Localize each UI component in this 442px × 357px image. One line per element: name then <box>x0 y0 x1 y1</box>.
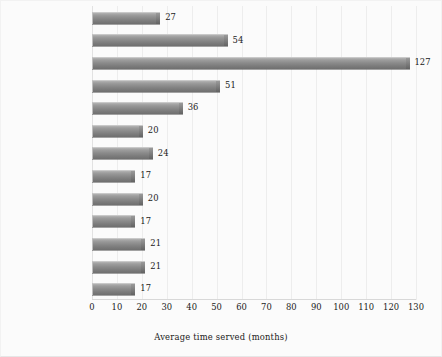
bar-value-label: 20 <box>148 187 159 210</box>
bar-end-bevel <box>179 103 183 114</box>
bar-end-bevel <box>131 284 135 295</box>
bar-end-bevel <box>141 262 145 273</box>
bar-chart: All offenses27Violent offenses54Murder12… <box>0 0 442 357</box>
bar <box>92 34 228 46</box>
bar-end-bevel <box>216 81 220 92</box>
x-tick-label-40: 40 <box>186 302 197 312</box>
bar-end-bevel <box>139 126 143 137</box>
bar-end-bevel <box>131 216 135 227</box>
bar-row: Weapons offenses21 <box>92 255 416 278</box>
bar-row: All offenses27 <box>92 6 416 29</box>
bar <box>92 170 135 182</box>
bar-value-label: 17 <box>140 210 151 233</box>
bar-value-label: 17 <box>140 164 151 187</box>
bar-end-bevel <box>224 35 228 46</box>
bar-row: Murder127 <box>92 51 416 74</box>
x-tick-label-70: 70 <box>261 302 272 312</box>
bar-value-label: 20 <box>148 119 159 142</box>
bar-row: Burglary24 <box>92 142 416 165</box>
bar-end-bevel <box>156 13 160 24</box>
x-tick-label-100: 100 <box>333 302 349 312</box>
x-tick-label-0: 0 <box>89 302 94 312</box>
bar-row: Property offenses20 <box>92 119 416 142</box>
bar <box>92 238 145 250</box>
bar-value-label: 24 <box>158 142 169 165</box>
gridline-130 <box>416 6 417 300</box>
x-tick-label-110: 110 <box>358 302 374 312</box>
bar-value-label: 127 <box>415 51 431 74</box>
x-tick-label-130: 130 <box>408 302 424 312</box>
x-tick-label-80: 80 <box>286 302 297 312</box>
bar-row: Larceny17 <box>92 164 416 187</box>
bar-value-label: 36 <box>188 96 199 119</box>
bar <box>92 80 220 92</box>
bar <box>92 12 160 24</box>
x-tick-label-50: 50 <box>211 302 222 312</box>
x-tick-label-90: 90 <box>311 302 322 312</box>
bar-value-label: 17 <box>140 277 151 300</box>
bar-row: Violent offenses54 <box>92 29 416 52</box>
bar-value-label: 21 <box>150 232 161 255</box>
bar-row: Robbery51 <box>92 74 416 97</box>
bar <box>92 215 135 227</box>
bar-value-label: 27 <box>165 6 176 29</box>
x-tick-label-10: 10 <box>112 302 123 312</box>
bar-value-label: 21 <box>150 255 161 278</box>
bar-value-label: 54 <box>233 29 244 52</box>
bar-end-bevel <box>406 58 410 69</box>
x-tick-label-20: 20 <box>137 302 148 312</box>
bar-end-bevel <box>149 148 153 159</box>
x-tick-label-120: 120 <box>383 302 399 312</box>
bar-row: Drug offenses20 <box>92 187 416 210</box>
bar <box>92 193 143 205</box>
x-tick-label-30: 30 <box>161 302 172 312</box>
bar-end-bevel <box>131 171 135 182</box>
bar-row: Possession17 <box>92 210 416 233</box>
bar <box>92 147 153 159</box>
plot-area: All offenses27Violent offenses54Murder12… <box>92 6 416 300</box>
bar-row: Other offenses17 <box>92 277 416 300</box>
bar <box>92 102 183 114</box>
bar <box>92 261 145 273</box>
bar-row: Trafficking21 <box>92 232 416 255</box>
x-axis-title: Average time served (months) <box>0 332 442 342</box>
bar <box>92 125 143 137</box>
bar-end-bevel <box>139 194 143 205</box>
bar-row: Assault36 <box>92 96 416 119</box>
bar <box>92 57 410 69</box>
x-tick-label-60: 60 <box>236 302 247 312</box>
bar-value-label: 51 <box>225 74 236 97</box>
bar-end-bevel <box>141 239 145 250</box>
bar <box>92 283 135 295</box>
